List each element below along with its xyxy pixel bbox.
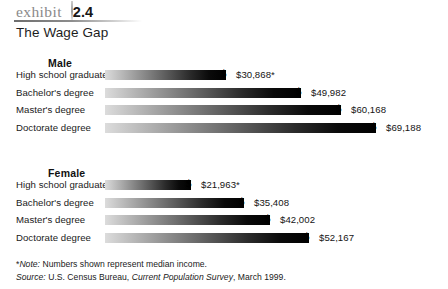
bar-category-label: Master's degree	[16, 104, 85, 115]
table-row: Bachelor's degree$$35,408	[0, 196, 448, 210]
exhibit-label: exhibit	[16, 3, 68, 21]
bar-end-currency-icon: $	[221, 66, 227, 80]
bar-value-label: $30,868*	[236, 69, 275, 80]
bar-end-currency-icon: $	[336, 101, 342, 115]
bar-fill	[105, 88, 301, 98]
bar-category-label: Master's degree	[16, 214, 85, 225]
bar-category-label: High school graduate	[16, 69, 108, 80]
bar-value-label: $49,982	[311, 87, 346, 98]
bar-value-label: $21,963*	[201, 179, 240, 190]
bar-fill	[105, 215, 270, 225]
bar-track	[105, 180, 191, 190]
bar-track	[105, 198, 244, 208]
bar-end-currency-icon: $	[371, 119, 377, 133]
note-label: Note:	[19, 259, 40, 269]
bar-value-label: $60,168	[351, 104, 386, 115]
table-row: High school graduate$$30,868*	[0, 68, 448, 82]
table-row: Bachelor's degree$$49,982	[0, 86, 448, 100]
bar-value-label: $35,408	[254, 197, 289, 208]
bar-fill	[105, 105, 341, 115]
bar-end-currency-icon: $	[265, 211, 271, 225]
bar-fill	[105, 70, 226, 80]
bar-fill	[105, 198, 244, 208]
table-row: Master's degree$$60,168	[0, 103, 448, 117]
bar-track	[105, 233, 309, 243]
table-row: Doctorate degree$$69,188	[0, 121, 448, 135]
note-line: *Note: Numbers shown represent median in…	[16, 258, 436, 271]
exhibit-header: exhibit 2.4	[16, 3, 93, 21]
source-text-2: , March 1999.	[233, 272, 286, 282]
table-row: Master's degree$$42,002	[0, 213, 448, 227]
page-title: The Wage Gap	[16, 25, 108, 40]
bar-category-label: Doctorate degree	[16, 232, 91, 243]
source-line: Source: U.S. Census Bureau, Current Popu…	[16, 271, 436, 284]
source-label: Source:	[16, 272, 46, 282]
bar-fill	[105, 233, 309, 243]
footnotes: *Note: Numbers shown represent median in…	[16, 258, 436, 283]
bar-track	[105, 88, 301, 98]
exhibit-divider	[71, 1, 73, 20]
exhibit-rule	[14, 20, 142, 22]
bar-fill	[105, 123, 376, 133]
bar-category-label: Bachelor's degree	[16, 87, 94, 98]
bar-track	[105, 123, 376, 133]
bar-value-label: $69,188	[386, 122, 421, 133]
bar-category-label: High school graduate	[16, 179, 108, 190]
bar-value-label: $52,167	[319, 232, 354, 243]
source-publication: Current Population Survey	[132, 272, 233, 282]
table-row: High school graduate$$21,963*	[0, 178, 448, 192]
table-row: Doctorate degree$$52,167	[0, 231, 448, 245]
bar-category-label: Bachelor's degree	[16, 197, 94, 208]
bar-end-currency-icon: $	[186, 176, 192, 190]
bar-end-currency-icon: $	[239, 194, 245, 208]
bar-end-currency-icon: $	[296, 84, 302, 98]
bar-track	[105, 105, 341, 115]
bar-fill	[105, 180, 191, 190]
bar-category-label: Doctorate degree	[16, 122, 91, 133]
note-text: Numbers shown represent median income.	[40, 259, 207, 269]
bar-value-label: $42,002	[280, 214, 315, 225]
bar-track	[105, 70, 226, 80]
bar-track	[105, 215, 270, 225]
bar-end-currency-icon: $	[304, 229, 310, 243]
source-text-1: U.S. Census Bureau,	[46, 272, 132, 282]
